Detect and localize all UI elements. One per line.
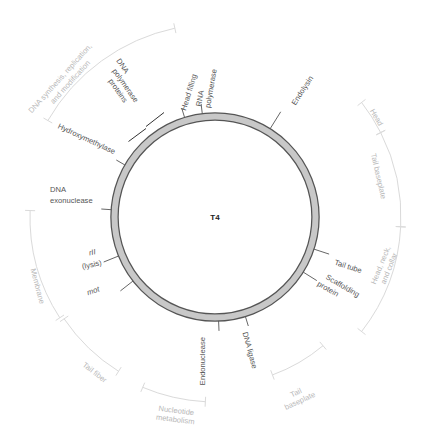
gene-endonuclease: Endonuclease [198, 337, 207, 385]
svg-text:polymerase: polymerase [203, 68, 219, 108]
region-head: Head [368, 107, 385, 127]
svg-text:Tail fiber: Tail fiber [81, 360, 109, 385]
gene-rna-polymerase: RNA polymerase [194, 67, 219, 109]
gene-tick-mot [120, 281, 133, 291]
svg-text:mot: mot [86, 284, 102, 297]
region-cap [358, 99, 366, 105]
svg-text:DNA ligase: DNA ligase [241, 331, 259, 370]
gene-tick-endolysin [270, 112, 281, 129]
gene-dna-polymerase-proteins: DNA polymerase proteins [100, 57, 148, 110]
region-arc-tail-baseplate-2 [273, 346, 324, 375]
region-cap [205, 397, 206, 407]
genome-name: T4 [210, 213, 220, 222]
svg-text:Endonuclease: Endonuclease [198, 337, 207, 385]
region-tail-baseplate-2: Tail baseplate [279, 382, 316, 412]
svg-text:DNA synthesis, replication,: DNA synthesis, replication, [27, 42, 94, 115]
svg-text:(lysis): (lysis) [81, 258, 103, 271]
svg-text:exonuclease: exonuclease [50, 196, 93, 205]
gene-dna-ligase: DNA ligase [241, 331, 259, 370]
svg-text:DNA: DNA [50, 185, 67, 194]
gene-tick-tail-tube [314, 249, 329, 254]
svg-text:Membrane: Membrane [28, 267, 46, 304]
region-cap [116, 367, 121, 376]
region-tail-fiber: Tail fiber [81, 360, 109, 385]
region-nucleotide-metabolism: Nucleotide metabolism [155, 404, 196, 427]
region-cap [396, 227, 406, 228]
svg-text:Endolysin: Endolysin [290, 74, 315, 107]
gene-tick-dna-ligase [245, 317, 248, 327]
svg-text:rII: rII [88, 247, 97, 257]
gene-tick-hydroxymethylase [116, 160, 125, 165]
region-tail-baseplate-1: Tail baseplate [369, 152, 388, 199]
region-cap [320, 342, 326, 350]
gene-endolysin: Endolysin [290, 74, 315, 107]
t4-genome-map: T4 RNA polymerase Head filling Endolysin… [0, 0, 430, 445]
svg-text:Head: Head [368, 107, 385, 127]
gene-tick-rii-lysis [104, 256, 119, 262]
svg-text:Hydroxymethylase: Hydroxymethylase [56, 122, 116, 157]
region-cap [358, 328, 366, 334]
region-dna-synthesis: DNA synthesis, replication, and modifica… [27, 42, 102, 122]
region-head-neck-collar: Head, neck, and collar [369, 245, 401, 289]
gene-hydroxymethylase: Hydroxymethylase [56, 122, 116, 157]
region-cap [44, 118, 53, 123]
gene-mot: mot [86, 284, 102, 297]
gene-tick-scaffolding-protein [303, 272, 317, 281]
region-membrane: Membrane [28, 267, 46, 304]
gene-tick-dna-exonuclease [101, 209, 111, 210]
region-cap [376, 130, 385, 135]
gene-dna-exonuclease: DNA exonuclease [50, 185, 93, 205]
region-labels: DNA synthesis, replication, and modifica… [27, 42, 401, 427]
region-cap [141, 383, 145, 392]
gene-tail-tube: Tail tube [333, 258, 363, 275]
svg-text:Tail tube: Tail tube [333, 258, 363, 275]
gene-scaffolding-protein: Scaffolding protein [316, 271, 361, 308]
svg-text:Tail baseplate: Tail baseplate [369, 152, 388, 199]
region-arc-nucleotide-metabolism [143, 387, 206, 401]
gene-rii-lysis: rII (lysis) [81, 247, 103, 271]
